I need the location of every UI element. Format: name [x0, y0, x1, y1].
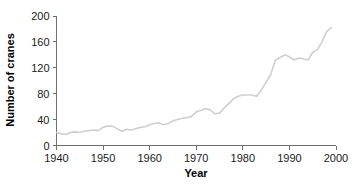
- y-tick-label: 200: [31, 10, 49, 22]
- chart-container: 04080120160200 1940195019601970198019902…: [0, 0, 358, 184]
- y-tick-label: 160: [31, 36, 49, 48]
- x-tick-label: 1960: [137, 152, 161, 164]
- y-axis-title: Number of cranes: [4, 33, 16, 127]
- x-tick-label: 1940: [44, 152, 68, 164]
- y-tick-label: 40: [37, 114, 49, 126]
- y-axis-ticks: [53, 16, 57, 146]
- x-tick-label: 2000: [324, 152, 348, 164]
- y-axis-tick-labels: 04080120160200: [31, 10, 49, 152]
- x-tick-label: 1990: [277, 152, 301, 164]
- x-axis-title: Year: [184, 167, 208, 179]
- crane-count-line: [57, 28, 332, 135]
- y-tick-label: 120: [31, 62, 49, 74]
- line-chart: 04080120160200 1940195019601970198019902…: [0, 0, 358, 184]
- y-tick-label: 0: [43, 140, 49, 152]
- x-axis-tick-labels: 1940195019601970198019902000: [44, 152, 348, 164]
- x-axis-ticks: [57, 146, 337, 150]
- x-tick-label: 1970: [184, 152, 208, 164]
- x-tick-label: 1950: [91, 152, 115, 164]
- y-tick-label: 80: [37, 88, 49, 100]
- x-tick-label: 1980: [231, 152, 255, 164]
